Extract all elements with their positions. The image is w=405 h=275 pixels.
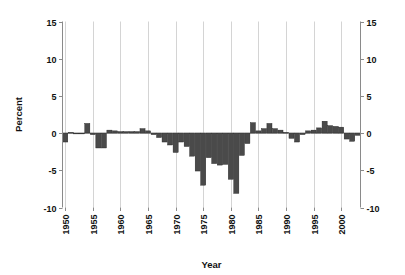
xtick-label-1955: 1955 xyxy=(89,215,99,235)
bar-1983 xyxy=(245,133,250,143)
xtick-label-1950: 1950 xyxy=(61,215,71,235)
ytick-label-left--5: -5 xyxy=(48,166,56,176)
bar-1957 xyxy=(101,133,106,148)
bar-1976 xyxy=(206,133,211,158)
bar-1984 xyxy=(250,123,255,133)
bar-1961 xyxy=(123,132,128,133)
xtick-label-1960: 1960 xyxy=(116,215,126,235)
bar-1988 xyxy=(272,129,277,133)
bar-1964 xyxy=(140,129,145,133)
ytick-label-right-0: 0 xyxy=(367,129,372,139)
ytick-label-right--10: -10 xyxy=(367,204,380,214)
ytick-label-right-15: 15 xyxy=(367,18,377,28)
bar-1997 xyxy=(322,121,327,133)
bar-2001 xyxy=(344,133,349,139)
bar-1977 xyxy=(212,133,217,164)
bar-1981 xyxy=(234,133,239,193)
bar-1952 xyxy=(74,133,79,134)
xtick-label-1965: 1965 xyxy=(144,215,154,235)
bar-1974 xyxy=(195,133,200,171)
bar-1962 xyxy=(129,132,134,133)
bar-1987 xyxy=(267,123,272,133)
bar-1953 xyxy=(79,133,84,134)
bar-1969 xyxy=(168,133,173,145)
bar-1955 xyxy=(90,133,95,134)
bar-1982 xyxy=(239,133,244,155)
bar-1979 xyxy=(223,133,228,164)
bar-1990 xyxy=(283,132,288,133)
bar-1986 xyxy=(261,129,266,133)
bar-1999 xyxy=(333,126,338,133)
ytick-label-left-15: 15 xyxy=(46,18,56,28)
bar-1975 xyxy=(201,133,206,185)
ytick-label-left-0: 0 xyxy=(51,129,56,139)
xtick-label-1985: 1985 xyxy=(254,215,264,235)
bar-1985 xyxy=(256,131,261,133)
ytick-label-left-10: 10 xyxy=(46,55,56,65)
bar-1989 xyxy=(278,130,283,133)
bar-1991 xyxy=(289,133,294,138)
bar-1966 xyxy=(151,133,156,134)
xtick-label-1990: 1990 xyxy=(282,215,292,235)
bar-1954 xyxy=(85,123,90,133)
bar-1970 xyxy=(173,133,178,152)
bar-1980 xyxy=(228,133,233,179)
bar-1965 xyxy=(146,131,151,133)
bar-1951 xyxy=(68,132,73,133)
bar-1960 xyxy=(118,132,123,133)
bar-1992 xyxy=(295,133,300,142)
ytick-label-left-5: 5 xyxy=(51,92,56,102)
bar-1950 xyxy=(63,133,68,142)
bar-1996 xyxy=(317,128,322,133)
ytick-label-right--5: -5 xyxy=(367,166,375,176)
xtick-label-2000: 2000 xyxy=(337,215,347,235)
bar-2003 xyxy=(355,133,360,135)
bar-1972 xyxy=(184,133,189,146)
x-axis-title: Year xyxy=(201,259,221,270)
bar-2000 xyxy=(339,127,344,133)
bar-1958 xyxy=(107,130,112,133)
bar-1994 xyxy=(306,131,311,133)
bar-1959 xyxy=(112,131,117,133)
bar-1967 xyxy=(157,133,162,137)
y-axis-title: Percent xyxy=(13,96,24,132)
bar-1978 xyxy=(217,133,222,165)
ytick-label-left--10: -10 xyxy=(43,204,56,214)
xtick-label-1980: 1980 xyxy=(227,215,237,235)
bar-1998 xyxy=(328,126,333,133)
xtick-label-1995: 1995 xyxy=(310,215,320,235)
xtick-label-1975: 1975 xyxy=(199,215,209,235)
ytick-label-right-5: 5 xyxy=(367,92,372,102)
bar-1968 xyxy=(162,133,167,142)
bar-1973 xyxy=(190,133,195,156)
chart-container: 151510105500-5-5-10-10195019551960196519… xyxy=(0,0,405,275)
bar-1956 xyxy=(96,133,101,148)
percent-by-year-bar-chart: 151510105500-5-5-10-10195019551960196519… xyxy=(0,0,405,275)
bar-1995 xyxy=(311,130,316,133)
xtick-label-1970: 1970 xyxy=(172,215,182,235)
ytick-label-right-10: 10 xyxy=(367,55,377,65)
bar-1993 xyxy=(300,133,305,134)
bar-1963 xyxy=(134,132,139,133)
bar-1971 xyxy=(179,133,184,142)
bar-2002 xyxy=(350,133,355,141)
